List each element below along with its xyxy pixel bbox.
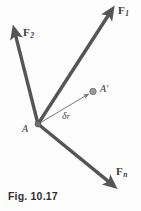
vector-label-f1: F1 (118, 4, 129, 18)
vector-label-f2: F2 (23, 26, 34, 40)
figure-caption: Fig. 10.17 (8, 190, 58, 202)
point-a-prime-marker (90, 88, 96, 94)
vector-f1 (38, 14, 110, 125)
displacement-label-delta-r: δr (62, 110, 70, 121)
point-label-a-prime: A′ (100, 83, 108, 94)
point-label-a: A (22, 123, 28, 134)
vector-fn (38, 124, 110, 183)
vector-f2 (15, 34, 38, 124)
point-a-marker (35, 121, 41, 127)
force-vector-diagram (0, 0, 141, 211)
figure-container: F1 F2 Fn A A′ δr Fig. 10.17 (0, 0, 141, 211)
vector-label-fn: Fn (116, 165, 127, 179)
